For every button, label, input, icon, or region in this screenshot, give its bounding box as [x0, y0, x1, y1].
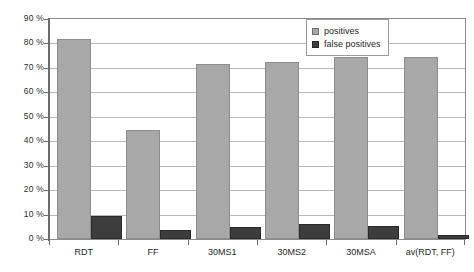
- bar-positives[interactable]: [265, 62, 299, 239]
- x-axis-tick-mark: [257, 240, 258, 245]
- bar-positives[interactable]: [126, 130, 160, 240]
- bar-positives[interactable]: [334, 57, 368, 239]
- bar-group: [396, 19, 465, 239]
- bar-false-positives[interactable]: [230, 227, 261, 239]
- bar-false-positives[interactable]: [438, 235, 469, 239]
- legend-label: positives: [324, 26, 359, 36]
- x-axis-category-label: RDT: [49, 246, 118, 258]
- y-axis-tick-label: 40 %: [4, 136, 44, 145]
- y-axis-tick-label: 50 %: [4, 112, 44, 121]
- legend-swatch-icon: [312, 41, 319, 48]
- x-axis-tick-mark: [464, 240, 465, 245]
- x-axis-tick-mark: [49, 240, 50, 245]
- bar-group: [188, 19, 257, 239]
- x-axis-labels: RDTFF30MS130MS230MSAav(RDT, FF): [49, 246, 465, 268]
- x-axis-tick-mark: [188, 240, 189, 245]
- y-axis-tick-label: 30 %: [4, 161, 44, 170]
- legend-item[interactable]: positives: [312, 25, 381, 37]
- legend-item[interactable]: false positives: [312, 38, 381, 50]
- x-axis-tick-mark: [396, 240, 397, 245]
- y-axis-tick-label: 70 %: [4, 63, 44, 72]
- x-axis-category-label: 30MS1: [188, 246, 257, 258]
- x-axis-category-label: FF: [118, 246, 187, 258]
- x-axis-category-label: 30MSA: [326, 246, 395, 258]
- y-axis-tick-label: 20 %: [4, 185, 44, 194]
- x-axis-category-label: 30MS2: [257, 246, 326, 258]
- chart-legend: positivesfalse positives: [306, 19, 389, 56]
- bars-layer: [49, 19, 465, 239]
- bar-group: [118, 19, 187, 239]
- legend-swatch-icon: [312, 28, 319, 35]
- legend-label: false positives: [324, 39, 381, 49]
- y-axis-tick-label: 80 %: [4, 38, 44, 47]
- bar-chart: 0 %10 %20 %30 %40 %50 %60 %70 %80 %90 % …: [0, 0, 474, 272]
- y-axis-tick-label: 0 %: [4, 234, 44, 243]
- bar-positives[interactable]: [57, 39, 91, 239]
- x-axis-tick-mark: [326, 240, 327, 245]
- y-axis-ticks: 0 %10 %20 %30 %40 %50 %60 %70 %80 %90 %: [0, 0, 44, 272]
- y-axis-tick-label: 10 %: [4, 210, 44, 219]
- x-axis-category-label: av(RDT, FF): [396, 246, 465, 258]
- y-axis-tick-label: 90 %: [4, 14, 44, 23]
- bar-group: [49, 19, 118, 239]
- bar-positives[interactable]: [404, 57, 438, 239]
- bar-positives[interactable]: [196, 64, 230, 239]
- y-axis-tick-label: 60 %: [4, 87, 44, 96]
- x-axis-tick-mark: [118, 240, 119, 245]
